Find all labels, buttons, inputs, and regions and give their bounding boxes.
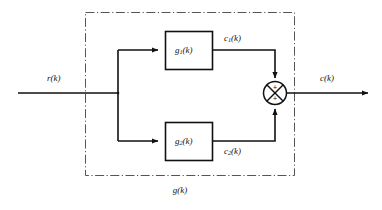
- branch-point: [117, 92, 120, 95]
- c2-signal-label: c2(k): [224, 146, 241, 157]
- diagram-svg: r(k) c(k) g1(k) g2(k) c1(k) c2(k) + +: [0, 0, 382, 210]
- block-diagram-canvas: r(k) c(k) g1(k) g2(k) c1(k) c2(k) + +: [0, 0, 382, 210]
- block-g2-label: g2(k): [175, 136, 193, 147]
- summing-sign-top: +: [273, 83, 277, 90]
- outer-block-label: g(k): [173, 185, 188, 195]
- output-label: c(k): [320, 73, 334, 83]
- input-label: r(k): [47, 73, 61, 83]
- block-g1-label: g1(k): [175, 45, 193, 56]
- summing-sign-bottom: +: [273, 95, 277, 102]
- c2-signal-path: [213, 109, 276, 141]
- c1-signal-label: c1(k): [224, 33, 241, 44]
- c1-signal-path: [213, 50, 276, 78]
